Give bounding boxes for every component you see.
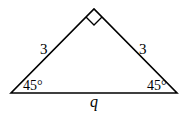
left-leg-label: 3 xyxy=(40,41,48,57)
right-angle-marker xyxy=(86,17,102,25)
bottom-left-angle-label: 45° xyxy=(23,78,43,93)
hypotenuse-label: q xyxy=(90,93,98,111)
right-leg-label: 3 xyxy=(139,41,147,57)
triangle-diagram: 3 3 45° 45° q xyxy=(0,0,187,114)
bottom-right-angle-label: 45° xyxy=(147,78,167,93)
